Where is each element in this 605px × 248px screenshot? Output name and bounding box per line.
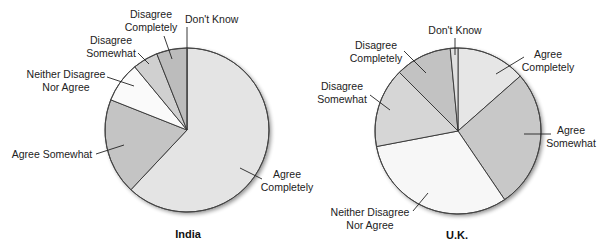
uk-pie: AgreeCompletelyAgreeSomewhatNeither Disa… [317,24,596,231]
label-agree-somewhat: AgreeSomewhat [546,124,596,149]
label-disagree-completely: DisagreeCompletely [350,39,403,64]
label-disagree-somewhat: DisagreeSomewhat [86,34,136,59]
label-disagree-somewhat: DisagreeSomewhat [317,80,367,105]
pie-charts: AgreeCompletelyAgree SomewhatNeither Dis… [0,0,605,248]
label-neither-disagree-nor-agree: Neither DisagreeNor Agree [331,206,410,231]
label-agree-completely: AgreeCompletely [522,48,575,73]
label-agree-somewhat: Agree Somewhat [12,148,93,160]
uk-title: U.K. [446,229,468,241]
india-title: India [175,228,202,240]
india-pie: AgreeCompletelyAgree SomewhatNeither Dis… [12,8,314,212]
label-neither-disagree-nor-agree: Neither DisagreeNor Agree [27,68,106,93]
label-agree-completely: AgreeCompletely [261,168,314,193]
label-don-t-know: Don't Know [185,13,239,25]
label-don-t-know: Don't Know [428,24,482,36]
label-disagree-completely: DisagreeCompletely [125,8,178,33]
